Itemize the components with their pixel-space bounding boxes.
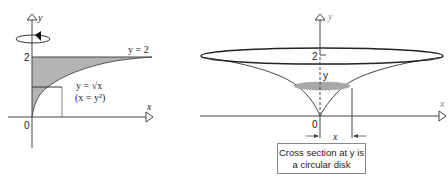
diagram-canvas: y x 2 0 y = 2 y = √x (x = y²) y xyxy=(0,0,448,184)
cross-section-disk xyxy=(294,82,350,90)
origin-label: 0 xyxy=(312,119,318,130)
rotation-ellipse xyxy=(16,35,50,43)
x-axis-arrow-icon xyxy=(146,112,153,122)
x-axis-arrow-icon xyxy=(439,111,446,121)
curve-label-2: (x = y²) xyxy=(75,92,105,104)
curve-label-1: y = √x xyxy=(76,80,102,91)
origin-label: 0 xyxy=(24,120,30,131)
dim-arrowhead-right-icon xyxy=(353,134,358,138)
cross-section-y-label: y xyxy=(323,70,328,81)
caption-line-1: Cross section at y is xyxy=(278,147,365,159)
y-axis-label: y xyxy=(37,12,43,23)
top-line-label: y = 2 xyxy=(128,44,149,55)
right-figure: y x 2 0 y x xyxy=(200,11,446,142)
x-axis-label: x xyxy=(146,101,152,112)
y-axis-arrow-icon xyxy=(27,14,37,20)
caption-line-2: a circular disk xyxy=(278,159,365,171)
tick-2-label: 2 xyxy=(312,51,318,62)
left-figure: y x 2 0 y = 2 y = √x (x = y²) xyxy=(8,12,153,148)
dim-arrowhead-left-icon xyxy=(314,134,319,138)
rotation-arrow-icon xyxy=(35,31,41,41)
caption-box: Cross section at y is a circular disk xyxy=(277,143,366,174)
top-ellipse xyxy=(201,48,443,64)
tick-2-label: 2 xyxy=(24,52,30,63)
x-axis-label: x xyxy=(439,98,445,109)
radius-label: x xyxy=(332,131,338,142)
y-axis-label: y xyxy=(327,11,333,22)
y-axis-arrow-icon xyxy=(315,14,325,20)
